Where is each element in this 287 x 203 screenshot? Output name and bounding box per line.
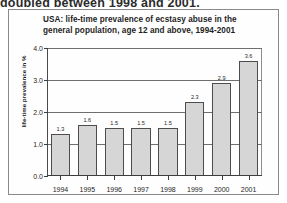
y-tick-label: 3.0 — [33, 77, 43, 84]
x-tick-group: 1998 — [155, 48, 182, 176]
y-tick-label: 2.0 — [33, 109, 43, 116]
x-tick-label: 2000 — [208, 186, 235, 193]
x-tick-mark — [195, 176, 196, 180]
figure-container: USA: life-time prevalence of ecstasy abu… — [8, 9, 279, 195]
x-tick-group: 1997 — [128, 48, 155, 176]
x-tick-label: 1995 — [74, 186, 101, 193]
x-tick-mark — [114, 176, 115, 180]
surrounding-document-text: doubled between 1998 and 2001. — [0, 0, 287, 8]
x-tick-label: 2001 — [235, 186, 262, 193]
x-tick-label: 1996 — [101, 186, 128, 193]
x-tick-mark — [168, 176, 169, 180]
x-tick-group: 1999 — [181, 48, 208, 176]
x-tick-group: 1994 — [47, 48, 74, 176]
x-tick-mark — [222, 176, 223, 180]
x-tick-group: 1996 — [101, 48, 128, 176]
x-tick-mark — [60, 176, 61, 180]
x-tick-group: 2001 — [235, 48, 262, 176]
x-tick-label: 1998 — [155, 186, 182, 193]
x-tick-mark — [87, 176, 88, 180]
x-tick-label: 1999 — [181, 186, 208, 193]
y-tick-label: 1.0 — [33, 141, 43, 148]
chart-title-line-1: USA: life-time prevalence of ecstasy abu… — [43, 15, 263, 26]
y-axis-label: life-time prevalence in % — [20, 52, 27, 132]
plot-wrapper: 0.01.02.03.04.0 1.31.61.51.51.52.32.93.6… — [47, 48, 262, 176]
x-tick-mark — [249, 176, 250, 180]
chart-title-line-2: general population, age 12 and above, 19… — [43, 26, 263, 37]
x-tick-group: 2000 — [208, 48, 235, 176]
y-tick-label: 0.0 — [33, 173, 43, 180]
y-tick-label: 4.0 — [33, 45, 43, 52]
x-tick-mark — [141, 176, 142, 180]
y-tick-mark — [44, 176, 48, 177]
x-tick-group: 1995 — [74, 48, 101, 176]
chart-title: USA: life-time prevalence of ecstasy abu… — [43, 15, 263, 36]
x-tick-label: 1994 — [47, 186, 74, 193]
x-tick-label: 1997 — [128, 186, 155, 193]
